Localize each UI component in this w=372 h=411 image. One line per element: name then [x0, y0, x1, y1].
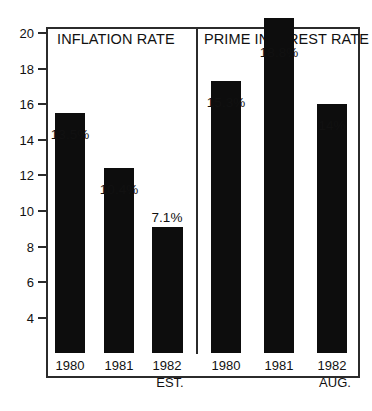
panel-divider [196, 27, 198, 354]
bar-inflation-1982 [152, 227, 183, 353]
x-tick-sublabel-aug: AUG. [319, 375, 351, 390]
y-tick-label: 16 [20, 97, 34, 112]
x-tick-label: 1980 [56, 358, 85, 373]
bar-value-label: 15.3% [207, 95, 245, 110]
y-tick-label: 20 [20, 26, 34, 41]
bar-value-label: 13.5% [51, 127, 89, 142]
plot-frame [46, 27, 360, 378]
x-tick-label: 1981 [105, 358, 134, 373]
x-tick-label: 1982 [153, 358, 182, 373]
bar-chart-figure: 20 18 16 14 12 10 8 6 4 INFLATION RATE P… [0, 0, 372, 411]
bar-inflation-1980 [55, 113, 85, 353]
x-tick-label: 1981 [265, 358, 294, 373]
y-tick-label: 6 [27, 275, 34, 290]
x-tick-label: 1982 [318, 358, 347, 373]
x-tick-label: 1980 [212, 358, 241, 373]
bar-prime-1980 [211, 81, 241, 353]
y-axis: 20 18 16 14 12 10 8 6 4 [0, 0, 46, 411]
y-tick-label: 18 [20, 61, 34, 76]
x-axis-labels: 1980 1981 1982 EST. 1980 1981 1982 AUG. [46, 355, 360, 378]
y-tick-label: 8 [27, 239, 34, 254]
y-tick-label: 4 [27, 310, 34, 325]
y-tick-label: 12 [20, 168, 34, 183]
x-tick-sublabel-est: EST. [156, 375, 183, 390]
bar-prime-1982 [317, 104, 347, 353]
bar-value-label: 7.1% [152, 210, 183, 225]
bar-prime-1981 [264, 18, 294, 353]
bar-value-label: 10.4% [100, 182, 138, 197]
y-tick-label: 14 [20, 132, 34, 147]
y-tick-label: 10 [20, 204, 34, 219]
bar-value-label: 14% [318, 118, 345, 133]
bar-value-label: 18.8% [260, 45, 298, 60]
panel-title-inflation: INFLATION RATE [57, 31, 175, 47]
